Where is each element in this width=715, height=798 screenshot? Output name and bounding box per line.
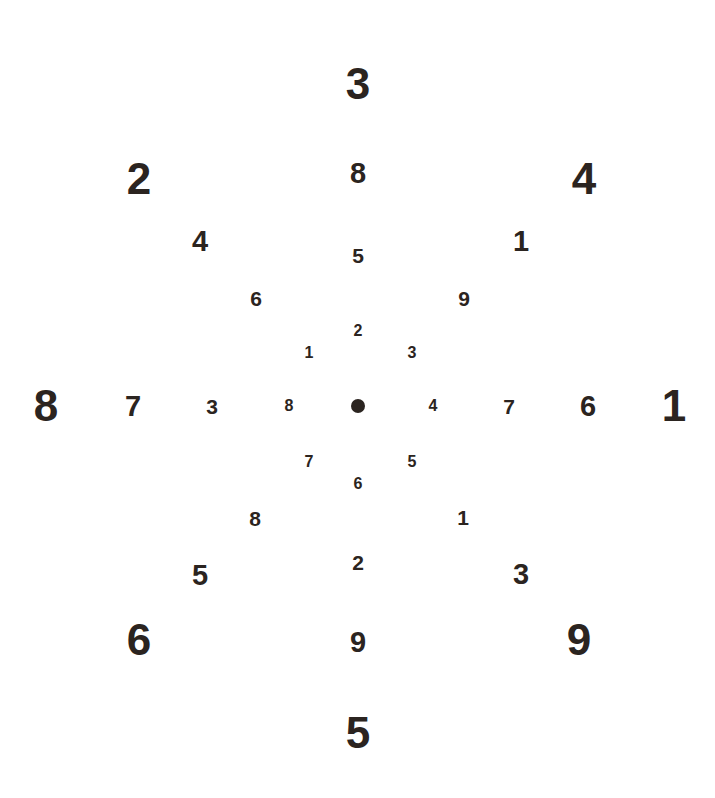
digit-r4-s: 5 <box>346 711 370 755</box>
digit-r1-w: 8 <box>285 398 294 414</box>
digit-r2-nw: 6 <box>250 288 262 309</box>
digit-r1-sw: 7 <box>305 454 314 470</box>
digit-r1-s: 6 <box>354 476 363 492</box>
digit-r2-se: 1 <box>457 507 469 528</box>
digit-r4-nw: 2 <box>127 157 151 201</box>
digit-r2-e: 7 <box>503 396 515 417</box>
digit-r4-sw: 6 <box>127 618 151 662</box>
digit-r3-w: 7 <box>125 392 141 421</box>
radial-digit-chart: 23456781597128368163957434195682 <box>0 0 715 798</box>
digit-r2-w: 3 <box>206 396 218 417</box>
digit-r1-se: 5 <box>408 454 417 470</box>
digit-r2-n: 5 <box>352 245 364 266</box>
digit-r1-ne: 3 <box>408 345 417 361</box>
digit-r1-nw: 1 <box>305 345 314 361</box>
digit-r4-w: 8 <box>34 384 58 428</box>
digit-r3-n: 8 <box>350 159 366 188</box>
digit-r1-e: 4 <box>429 398 438 414</box>
digit-r1-n: 2 <box>354 323 363 339</box>
digit-r3-nw: 4 <box>192 227 208 256</box>
digit-r2-ne: 9 <box>458 288 470 309</box>
digit-r4-e: 1 <box>662 384 686 428</box>
digit-r3-e: 6 <box>580 392 596 421</box>
digit-r2-sw: 8 <box>249 508 261 529</box>
digit-r4-se: 9 <box>567 618 591 662</box>
digit-r3-sw: 5 <box>192 561 208 590</box>
center-fixation-dot <box>351 399 365 413</box>
digit-r4-n: 3 <box>346 62 370 106</box>
digit-r4-ne: 4 <box>572 157 596 201</box>
digit-r3-ne: 1 <box>513 227 529 256</box>
digit-r3-se: 3 <box>513 560 529 589</box>
digit-r2-s: 2 <box>352 552 364 573</box>
digit-r3-s: 9 <box>350 628 366 657</box>
